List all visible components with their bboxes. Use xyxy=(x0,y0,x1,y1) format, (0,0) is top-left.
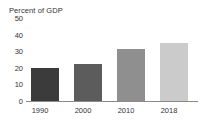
bar-slot xyxy=(117,18,145,101)
bar-slot xyxy=(31,18,59,101)
plot-area xyxy=(26,18,198,101)
bar-slot xyxy=(160,18,188,101)
bar-chart-figure: Percent of GDP 50 40 30 20 10 0 1990 200… xyxy=(0,0,201,126)
x-tick-label-1990: 1990 xyxy=(17,106,63,115)
y-tick-label: 30 xyxy=(15,47,23,56)
x-tick-label-2018: 2018 xyxy=(146,106,192,115)
bar-1990 xyxy=(31,68,59,101)
bar-2018 xyxy=(160,43,188,101)
bar-2000 xyxy=(74,64,102,101)
y-tick-label: 10 xyxy=(15,80,23,89)
y-tick-label: 0 xyxy=(19,97,23,106)
y-tick-label: 50 xyxy=(15,14,23,23)
y-tick-label: 40 xyxy=(15,30,23,39)
x-tick-label-2000: 2000 xyxy=(60,106,106,115)
y-tick-label: 20 xyxy=(15,63,23,72)
x-tick-label-2010: 2010 xyxy=(103,106,149,115)
bar-slot xyxy=(74,18,102,101)
x-axis-baseline xyxy=(26,101,198,102)
bar-2010 xyxy=(117,49,145,101)
